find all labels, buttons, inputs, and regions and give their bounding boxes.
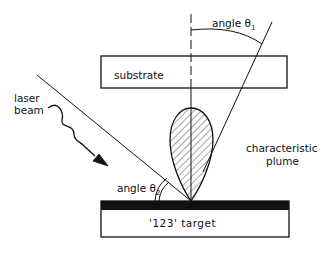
- plume-label-line2: plume: [266, 155, 299, 167]
- laser-label-line2: beam: [14, 104, 44, 116]
- laser-incidence-line: [37, 75, 191, 201]
- angle-theta2-label: angle θ2: [117, 182, 160, 199]
- plume-label-line1: characteristic: [246, 142, 317, 154]
- angle-theta1-label: angle θ1: [212, 17, 255, 34]
- target-film-band: [101, 201, 289, 210]
- laser-label-line1: laser: [14, 92, 40, 104]
- deposition-diagram: [0, 0, 329, 253]
- laser-beam-wave-icon: [48, 105, 95, 156]
- substrate-label: substrate: [114, 69, 164, 81]
- plume-shape: [170, 108, 213, 201]
- laser-beam-arrowhead-icon: [93, 154, 108, 166]
- target-label: '123' target: [149, 217, 216, 229]
